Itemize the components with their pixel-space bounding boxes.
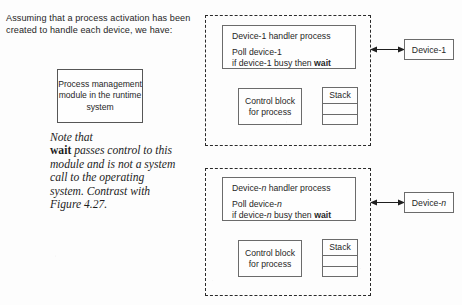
double-headed-arrow-icon bbox=[370, 198, 405, 207]
note-emphasis-wait: wait bbox=[50, 144, 71, 157]
device-1-connector-arrow bbox=[370, 45, 405, 54]
device-n-poll-italic: n bbox=[277, 199, 282, 209]
figure-canvas: Assuming that a process activation has b… bbox=[0, 0, 462, 305]
device-n-condition-prefix: if device- bbox=[232, 210, 267, 220]
device-n-poll-prefix: Poll device- bbox=[232, 199, 277, 209]
device-n-connector-arrow bbox=[370, 198, 405, 207]
device-1-handler-process-box: Device-1 handler process Poll device-1 i… bbox=[222, 25, 356, 69]
device-n-handler-title-suffix: handler process bbox=[266, 183, 330, 193]
device-1-handler-title: Device-1 handler process bbox=[232, 31, 347, 42]
device-n-label-prefix: Device- bbox=[412, 198, 441, 208]
device-n-stack-row bbox=[323, 256, 357, 267]
device-n-handler-title-prefix: Device- bbox=[232, 183, 261, 193]
device-n-handler-process-box: Device-n handler process Poll device-n i… bbox=[222, 177, 356, 221]
device-1-condition-prefix: if device-1 busy then bbox=[232, 58, 314, 68]
device-1-stack-label: Stack bbox=[323, 88, 357, 104]
device-n-stack-row bbox=[323, 267, 357, 277]
device-1-stack-row bbox=[323, 104, 357, 115]
device-1-label: Device-1 bbox=[412, 45, 446, 55]
device-1-control-block-line-1: Control block bbox=[245, 96, 295, 106]
device-n-stack-box: Stack bbox=[322, 239, 358, 277]
device-1-condition-line: if device-1 busy then wait bbox=[232, 58, 347, 69]
device-n-condition-line: if device-n busy then wait bbox=[232, 210, 347, 221]
device-n-label: Device-n bbox=[412, 198, 446, 208]
device-n-condition-keyword: wait bbox=[314, 210, 331, 220]
device-1-poll-line: Poll device-1 bbox=[232, 47, 347, 58]
device-1-control-block-box: Control block for process bbox=[238, 88, 302, 125]
device-1-control-block-label: Control block for process bbox=[245, 96, 295, 118]
device-n-handler-title: Device-n handler process bbox=[232, 183, 347, 194]
process-management-module-box: Process management module in the runtime… bbox=[57, 69, 143, 123]
note-line-1: Note that bbox=[50, 131, 93, 144]
device-1-condition-keyword: wait bbox=[314, 58, 331, 68]
device-n-stack-label: Stack bbox=[323, 240, 357, 256]
device-1-stack-row bbox=[323, 115, 357, 125]
device-n-control-block-box: Control block for process bbox=[238, 240, 302, 277]
double-headed-arrow-icon bbox=[370, 45, 405, 54]
note-block: Note that wait passes control to this mo… bbox=[50, 131, 180, 211]
device-1-control-block-line-2: for process bbox=[249, 107, 292, 117]
device-1-stack-box: Stack bbox=[322, 87, 358, 125]
device-n-box: Device-n bbox=[404, 192, 454, 213]
process-management-module-label: Process management module in the runtime… bbox=[58, 79, 142, 113]
intro-paragraph: Assuming that a process activation has b… bbox=[6, 12, 202, 37]
device-n-control-block-label: Control block for process bbox=[245, 248, 295, 270]
device-n-label-italic: n bbox=[441, 198, 446, 208]
device-n-control-block-line-1: Control block bbox=[245, 248, 295, 258]
device-n-control-block-line-2: for process bbox=[249, 259, 292, 269]
device-n-poll-line: Poll device-n bbox=[232, 199, 347, 210]
device-n-condition-mid: busy then bbox=[272, 210, 315, 220]
device-1-box: Device-1 bbox=[404, 39, 454, 60]
